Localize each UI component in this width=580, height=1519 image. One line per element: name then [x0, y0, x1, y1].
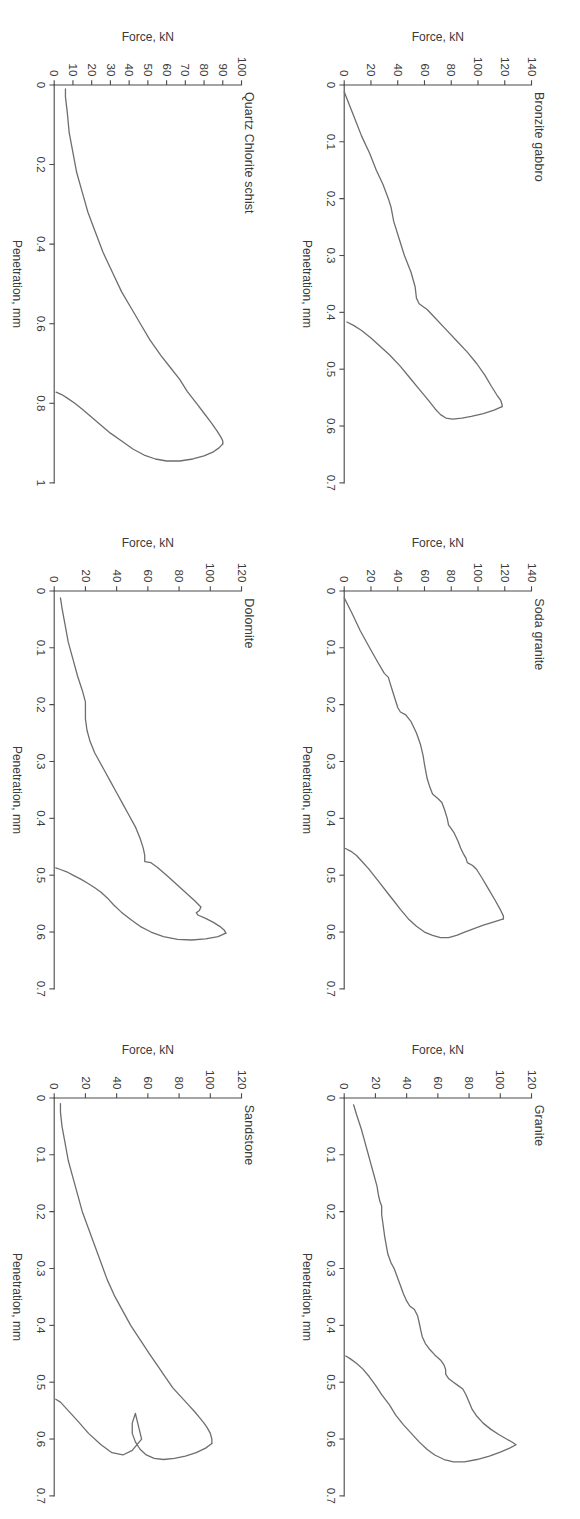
y-tick-label: 0 [338, 1083, 350, 1089]
x-tick-label: 0.5 [325, 1374, 337, 1390]
plot-sandstone: 00.10.20.30.40.50.60.7020406080100120Pen… [4, 1023, 284, 1509]
x-tick-label: 0 [325, 588, 337, 594]
x-tick-label: 0.6 [35, 924, 47, 940]
y-tick-label: 0 [48, 576, 60, 582]
y-axis-title: Force, kN [122, 1042, 174, 1056]
x-tick-label: 0.1 [325, 1146, 337, 1162]
plot-soda-granite: 00.10.20.30.40.50.60.7020406080100120140… [294, 516, 574, 1002]
plot-granite: 00.10.20.30.40.50.60.7020406080100120Pen… [294, 1023, 574, 1509]
x-tick-label: 0.1 [325, 640, 337, 656]
x-tick-label: 0.5 [325, 361, 337, 377]
y-tick-label: 80 [198, 64, 210, 77]
x-tick-label: 0.7 [35, 981, 47, 997]
x-tick-label: 0.4 [325, 811, 337, 828]
panel-title: Dolomite [242, 598, 256, 648]
y-tick-label: 10 [67, 64, 79, 77]
x-tick-label: 0.4 [325, 1317, 337, 1334]
data-curve-loading [344, 598, 503, 919]
x-tick-label: 0.1 [35, 640, 47, 656]
x-axis-title: Penetration, mm [300, 240, 314, 328]
y-tick-label: 120 [499, 57, 511, 76]
x-axis-title: Penetration, mm [10, 240, 24, 328]
y-axis-title: Force, kN [412, 536, 464, 550]
y-tick-label: 140 [526, 563, 538, 582]
y-tick-label: 120 [499, 563, 511, 582]
x-tick-label: 0.7 [35, 1488, 47, 1504]
y-tick-label: 60 [419, 64, 431, 77]
x-tick-label: 0.6 [325, 418, 337, 434]
x-axis-title: Penetration, mm [300, 746, 314, 834]
y-tick-label: 90 [217, 64, 229, 77]
data-curve-loading [354, 1104, 516, 1444]
data-curve-unloading [56, 868, 226, 940]
x-tick-label: 0.7 [325, 475, 337, 491]
x-tick-label: 0.5 [35, 868, 47, 884]
y-tick-label: 140 [526, 57, 538, 76]
panel-soda-granite: Soda granite 00.10.20.30.40.50.60.702040… [290, 506, 580, 1012]
y-tick-label: 50 [142, 64, 154, 77]
y-tick-label: 100 [204, 1070, 216, 1089]
data-curve-loading [65, 89, 222, 444]
data-curve-unloading [56, 392, 223, 461]
data-curve-loading [60, 1103, 211, 1443]
panel-grid: Bronzite gabbro 00.10.20.30.40.50.60.702… [0, 0, 580, 1519]
plot-quartz-chlorite-schist: 00.20.40.60.810102030405060708090100Pene… [4, 10, 284, 496]
data-curve-unloading [346, 849, 504, 938]
y-tick-label: 0 [48, 1083, 60, 1089]
panel-title: Bronzite gabbro [532, 92, 546, 182]
x-tick-label: 0.2 [325, 191, 337, 207]
x-tick-label: 1 [35, 480, 47, 486]
y-tick-label: 70 [179, 64, 191, 77]
x-tick-label: 0.4 [35, 1317, 47, 1334]
x-tick-label: 0.4 [35, 236, 47, 253]
rotated-figure-container: Bronzite gabbro 00.10.20.30.40.50.60.702… [0, 0, 580, 1519]
x-tick-label: 0.5 [35, 1374, 47, 1390]
y-axis-title: Force, kN [122, 30, 174, 44]
y-tick-label: 0 [48, 70, 60, 76]
panel-granite: Granite 00.10.20.30.40.50.60.70204060801… [290, 1013, 580, 1519]
x-tick-label: 0.1 [35, 1146, 47, 1162]
y-tick-label: 60 [142, 1076, 154, 1089]
y-tick-label: 20 [370, 1076, 382, 1089]
x-tick-label: 0.2 [35, 1203, 47, 1219]
x-tick-label: 0 [35, 1094, 47, 1100]
x-axis-title: Penetration, mm [10, 746, 24, 834]
x-tick-label: 0.2 [325, 697, 337, 713]
x-tick-label: 0.1 [325, 134, 337, 150]
y-tick-label: 80 [445, 64, 457, 77]
y-tick-label: 60 [161, 64, 173, 77]
y-tick-label: 120 [236, 1070, 248, 1089]
panel-bronzite-gabbro: Bronzite gabbro 00.10.20.30.40.50.60.702… [290, 0, 580, 506]
y-tick-label: 100 [236, 57, 248, 76]
y-tick-label: 80 [445, 570, 457, 583]
x-tick-label: 0 [325, 1094, 337, 1100]
y-tick-label: 20 [80, 1076, 92, 1089]
y-tick-label: 100 [472, 57, 484, 76]
data-curve-unloading [56, 1399, 212, 1459]
x-tick-label: 0.7 [325, 981, 337, 997]
x-axis-title: Penetration, mm [300, 1253, 314, 1341]
y-tick-label: 20 [365, 64, 377, 77]
y-tick-label: 20 [86, 64, 98, 77]
x-tick-label: 0.3 [325, 754, 337, 770]
data-curve-unloading [346, 1356, 516, 1462]
y-tick-label: 120 [526, 1070, 538, 1089]
y-axis-title: Force, kN [412, 1042, 464, 1056]
x-tick-label: 0.4 [325, 304, 337, 321]
y-tick-label: 40 [123, 64, 135, 77]
y-tick-label: 20 [80, 570, 92, 583]
plot-bronzite-gabbro: 00.10.20.30.40.50.60.7020406080100120140… [294, 10, 574, 496]
y-tick-label: 100 [472, 563, 484, 582]
x-tick-label: 0 [35, 588, 47, 594]
y-tick-label: 100 [204, 563, 216, 582]
y-tick-label: 40 [392, 570, 404, 583]
data-curve-loading [60, 598, 225, 933]
x-axis-title: Penetration, mm [10, 1253, 24, 1341]
panel-dolomite: Dolomite 00.10.20.30.40.50.60.7020406080… [0, 506, 290, 1012]
x-tick-label: 0.3 [325, 1260, 337, 1276]
y-tick-label: 40 [111, 1076, 123, 1089]
data-curve-loading [344, 92, 502, 407]
x-tick-label: 0.6 [325, 1431, 337, 1447]
y-tick-label: 20 [365, 570, 377, 583]
panel-title: Soda granite [532, 598, 546, 670]
